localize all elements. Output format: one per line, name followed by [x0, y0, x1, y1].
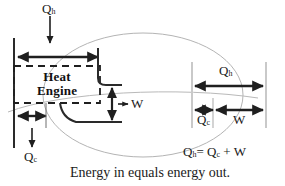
label-bar-q-hot: Qh: [219, 64, 232, 79]
label-bar-q-cold: Qc: [197, 113, 210, 128]
heat-engine-label-line1: Heat: [14, 70, 100, 84]
heat-engine-label-line2: Engine: [14, 84, 100, 98]
label-q-hot-inflow: Qh: [42, 2, 55, 17]
label-q-cold-outflow: Qc: [24, 150, 37, 165]
figure-canvas: Qh Heat Engine Qc W Qh Qc W Qh= Qc + W E…: [0, 0, 285, 186]
heat-engine-label: Heat Engine: [14, 70, 100, 98]
label-work-center: W: [131, 97, 143, 110]
figure-caption: Energy in equals energy out.: [70, 166, 230, 180]
label-bar-work: W: [233, 113, 245, 126]
flow-step-upper: [98, 48, 122, 85]
energy-balance-equation: Qh= Qc + W: [183, 145, 246, 160]
